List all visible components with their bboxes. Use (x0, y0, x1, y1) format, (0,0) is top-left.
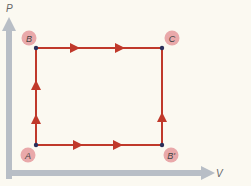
svg-text:A: A (24, 151, 31, 161)
vertices (34, 46, 164, 147)
arrow-up-icon (31, 114, 41, 124)
label-Bprime: B' (164, 148, 179, 163)
arrow-right-icon (113, 140, 123, 150)
pv-diagram: P V B C A (0, 0, 251, 186)
point-Bprime (160, 143, 164, 147)
cycle-path (36, 48, 162, 145)
y-axis (6, 29, 12, 179)
svg-text:C: C (169, 34, 176, 44)
label-C: C (165, 31, 180, 46)
point-labels: B C A B' (21, 31, 180, 163)
point-B (34, 46, 38, 50)
x-axis-arrow-icon (201, 166, 215, 180)
y-axis-arrow-icon (2, 17, 16, 31)
label-B: B (22, 31, 37, 46)
svg-text:B': B' (167, 151, 175, 161)
arrow-up-icon (157, 112, 167, 122)
point-A (34, 143, 38, 147)
arrowheads (31, 43, 167, 150)
arrow-up-icon (31, 80, 41, 90)
label-A: A (21, 148, 36, 163)
point-C (160, 46, 164, 50)
arrow-right-icon (70, 43, 80, 53)
arrow-right-icon (115, 43, 125, 53)
x-axis (6, 170, 202, 176)
x-axis-label: V (216, 168, 224, 179)
svg-text:B: B (26, 34, 32, 44)
y-axis-label: P (6, 3, 13, 14)
arrow-right-icon (73, 140, 83, 150)
